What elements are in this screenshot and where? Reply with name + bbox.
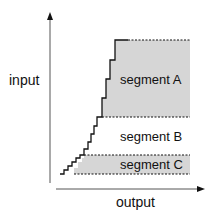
segment-c-label: segment C (120, 157, 183, 172)
segment-b-label: segment B (120, 129, 182, 144)
segment-a-label: segment A (120, 72, 181, 87)
x-axis-arrow-icon (197, 186, 205, 192)
diagram-canvas (0, 0, 215, 214)
x-axis-label: output (116, 194, 155, 210)
y-axis-label: input (9, 72, 39, 88)
y-axis-arrow-icon (47, 12, 53, 20)
